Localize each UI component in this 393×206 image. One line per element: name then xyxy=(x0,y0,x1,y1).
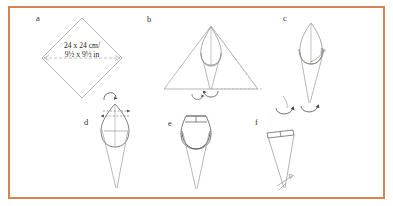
cone-left-edge xyxy=(102,130,116,188)
fold-guide-arrow-upper xyxy=(127,110,131,113)
panel-c-figure xyxy=(299,23,326,112)
panel-d-figure xyxy=(101,93,131,188)
panel-label-c: c xyxy=(283,14,287,23)
panel-e-figure xyxy=(181,94,211,189)
panel-f-figure xyxy=(267,96,294,190)
cone-right-edge xyxy=(310,50,324,103)
fold-hint-stroke xyxy=(283,96,287,108)
napkin-dimension-imperial: 9½ x 9½ in xyxy=(50,50,114,59)
panel-label-f: f xyxy=(255,118,258,127)
diagram-page: a b c d e f 24 x 24 cm/ 9½ x 9½ in xyxy=(0,0,393,206)
napkin-dimension-metric: 24 x 24 cm/ xyxy=(50,41,114,50)
panel-label-b: b xyxy=(147,15,151,24)
cone-right-edge xyxy=(117,130,128,188)
panel-label-e: e xyxy=(168,119,172,128)
rotate-arrow-curve xyxy=(276,107,293,114)
panel-label-a: a xyxy=(36,14,40,23)
cone-left-edge xyxy=(183,133,196,189)
rotate-arrow-head xyxy=(203,90,207,93)
fold-diagram-illustration xyxy=(0,0,393,206)
cone-right-edge xyxy=(197,133,209,189)
fold-guide-arrow-lower xyxy=(101,115,105,118)
fold-hint-diagonal xyxy=(211,26,256,87)
rim-center-divider xyxy=(280,132,281,137)
panel-b-figure xyxy=(164,26,262,97)
panel-label-d: d xyxy=(84,118,88,127)
rotate-arrow-head xyxy=(114,97,118,100)
cone-left-edge xyxy=(268,137,284,188)
rotate-arrow-curve xyxy=(301,105,318,112)
cone-left-edge xyxy=(300,52,309,103)
